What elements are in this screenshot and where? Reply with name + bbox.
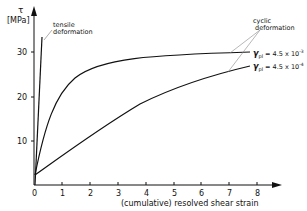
y-axis-unit: [MPa] xyxy=(7,16,30,25)
x-tick-6: 6 xyxy=(199,189,204,198)
x-tick-7: 7 xyxy=(227,189,232,198)
x-tick-8: 8 xyxy=(255,189,260,198)
y-axis-symbol: τ xyxy=(18,6,23,15)
y-tick-10: 10 xyxy=(17,137,27,146)
tensile-label-2: deformation xyxy=(53,29,93,36)
y-tick-30: 30 xyxy=(17,48,27,57)
chart: τ [MPa] 30 20 10 0 1 2 3 4 5 6 7 8 (cumu… xyxy=(0,0,307,211)
legend-low: γpl = 4.5 x 10-4 xyxy=(253,61,304,73)
cyclic-curve-high xyxy=(35,52,250,175)
y-axis-arrow-icon xyxy=(31,6,37,16)
cyclic-curve-low xyxy=(35,66,250,175)
cyclic-label-2: deformation xyxy=(255,25,295,32)
x-tick-0: 0 xyxy=(32,189,37,198)
tensile-leader xyxy=(44,30,52,40)
x-tick-4: 4 xyxy=(144,189,149,198)
x-axis-arrow-icon xyxy=(272,182,282,188)
legend-high: γpl = 4.5 x 10-3 xyxy=(253,48,304,60)
x-axis-label: (cumulative) resolved shear strain xyxy=(121,199,259,208)
x-tick-2: 2 xyxy=(88,189,93,198)
y-tick-20: 20 xyxy=(17,93,27,102)
x-tick-5: 5 xyxy=(172,189,177,198)
x-tick-3: 3 xyxy=(116,189,121,198)
x-tick-1: 1 xyxy=(60,189,65,198)
tensile-curve xyxy=(35,37,42,185)
